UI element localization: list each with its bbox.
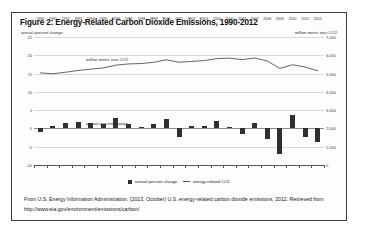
right-tick-label: 3,000: [326, 108, 336, 113]
x-tick: [34, 165, 35, 168]
x-tick: [185, 165, 186, 168]
x-tick: [223, 165, 224, 168]
x-tick: [72, 165, 73, 168]
left-tick-label: 0: [30, 126, 32, 131]
co2-line-series: [34, 37, 324, 165]
x-tick-label: 2004: [213, 17, 221, 21]
left-tick-label: -5: [28, 144, 32, 149]
right-tick-label: 0: [326, 163, 328, 168]
x-tick-label: 1997: [125, 17, 133, 21]
legend-item-bars: annual percent change: [128, 179, 177, 184]
x-tick: [261, 165, 262, 168]
left-tick-label: 20: [28, 53, 32, 58]
left-tick-label: 10: [28, 89, 32, 94]
x-tick-label: 2000: [162, 17, 170, 21]
x-tick: [211, 165, 212, 168]
x-tick-label: 2012: [314, 17, 322, 21]
x-tick-label: 1999: [150, 17, 158, 21]
legend-swatch-icon: [128, 180, 132, 184]
right-tick-label: 5,000: [326, 71, 336, 76]
right-tick-label: 4,000: [326, 89, 336, 94]
x-tick: [47, 165, 48, 168]
x-tick-label: 1993: [74, 17, 82, 21]
x-tick-label: 1992: [62, 17, 70, 21]
x-tick-label: 1990: [36, 17, 44, 21]
x-tick-label: 2010: [288, 17, 296, 21]
x-tick: [135, 165, 136, 168]
x-tick-label: 2002: [188, 17, 196, 21]
x-tick-label: 2011: [301, 17, 309, 21]
x-tick-label: 2006: [238, 17, 246, 21]
x-tick: [173, 165, 174, 168]
x-tick: [198, 165, 199, 168]
figure-caption: From U.S. Energy Information Administrat…: [24, 195, 336, 214]
left-tick-label: 5: [30, 108, 32, 113]
left-tick-label: 15: [28, 71, 32, 76]
right-tick-label: 6,000: [326, 53, 336, 58]
x-tick: [286, 165, 287, 168]
x-tick-label: 1991: [49, 17, 57, 21]
x-tick-label: 2007: [251, 17, 259, 21]
x-tick: [59, 165, 60, 168]
chart-legend: annual percent change energy-related CO2: [12, 179, 346, 184]
x-tick-label: 1995: [99, 17, 107, 21]
x-tick-label: 2008: [263, 17, 271, 21]
x-tick-label: 2003: [200, 17, 208, 21]
x-tick: [84, 165, 85, 168]
x-tick: [160, 165, 161, 168]
x-tick-label: 1994: [87, 17, 95, 21]
x-tick: [122, 165, 123, 168]
x-tick-label: 2009: [276, 17, 284, 21]
x-tick-label: 2005: [225, 17, 233, 21]
plot-area: 2520151050-5-10 7,0006,0005,0004,0003,00…: [34, 37, 324, 165]
right-tick-label: 2,000: [326, 126, 336, 131]
x-tick: [110, 165, 111, 168]
x-axis: [34, 165, 324, 166]
x-tick: [324, 165, 325, 168]
x-tick-label: 1998: [137, 17, 145, 21]
right-tick-label: 7,000: [326, 35, 336, 40]
x-tick: [147, 165, 148, 168]
x-tick: [97, 165, 98, 168]
caption-line-1: From U.S. Energy Information Administrat…: [24, 196, 274, 202]
x-tick: [274, 165, 275, 168]
x-tick: [299, 165, 300, 168]
legend-line-icon: [183, 181, 190, 182]
right-tick-label: 1,000: [326, 144, 336, 149]
x-tick: [311, 165, 312, 168]
legend-label-bars: annual percent change: [135, 179, 178, 184]
legend-label-line: energy-related CO2: [193, 179, 230, 184]
x-tick: [248, 165, 249, 168]
legend-item-line: energy-related CO2: [183, 179, 229, 184]
left-tick-label: 25: [28, 35, 32, 40]
figure-card: Figure 2: Energy-Related Carbon Dioxide …: [11, 12, 347, 221]
x-tick-label: 2001: [175, 17, 183, 21]
x-tick-label: 1996: [112, 17, 120, 21]
x-tick: [236, 165, 237, 168]
left-tick-label: -10: [26, 163, 32, 168]
